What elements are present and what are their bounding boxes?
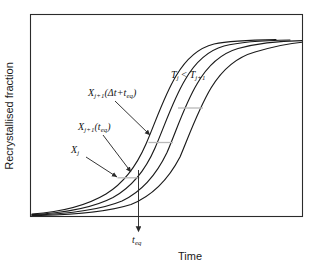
x-axis-label: Time — [178, 250, 202, 262]
annotation-x-j: Xj — [71, 144, 79, 155]
annotation-x-j1-dt-teq: Xj+1(Δt+teq) — [88, 87, 136, 98]
annotation-x-j1-teq-sub: j+1 — [84, 126, 94, 133]
annotation-x-j1-teq-tail: (t — [94, 121, 100, 132]
annotation-temp-t2-sub: j+1 — [195, 74, 205, 81]
annotation-t-eq: teq — [132, 234, 142, 245]
annotation-t-eq-sub: eq — [135, 239, 142, 246]
annotation-x-j1-teq: Xj+1(teq) — [78, 121, 111, 132]
annotation-temperature-inequality: Tj < Tj+1 — [171, 69, 205, 80]
annotation-x-j-sub: j — [77, 149, 79, 156]
annotation-x-j1-dt-teq-tail-end: ) — [133, 87, 136, 98]
plot-frame — [31, 15, 303, 217]
annotation-x-j1-dt-teq-tail-sub: eq — [126, 92, 133, 99]
annotation-x-j1-dt-teq-sub: j+1 — [94, 92, 104, 99]
figure-container: Recrystallised fraction Time Xj Xj+1(teq… — [0, 0, 317, 272]
annotation-temp-operator: < — [179, 69, 190, 80]
annotation-x-j1-dt-teq-tail: (Δt+t — [104, 87, 126, 98]
annotation-x-j1-teq-tail-end: ) — [107, 121, 110, 132]
annotation-temp-t1-sub: j — [177, 74, 179, 81]
annotation-x-j1-teq-tail-sub: eq — [101, 126, 108, 133]
y-axis-label: Recrystallised fraction — [3, 62, 15, 170]
recrystallisation-kinetics-diagram — [0, 0, 317, 272]
y-axis-label-wrapper: Recrystallised fraction — [0, 14, 18, 217]
annotation-temp-t1: T — [171, 69, 177, 80]
